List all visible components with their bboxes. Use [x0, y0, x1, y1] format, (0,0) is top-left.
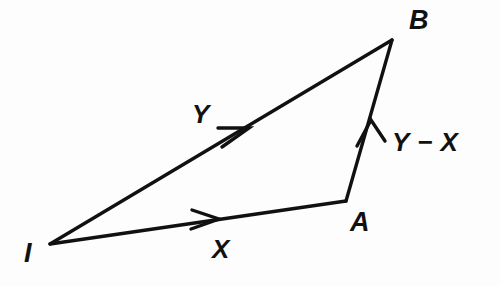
x-vector-arrowhead	[191, 210, 219, 229]
vector-diagram: I B A X Y Y − X	[0, 0, 500, 286]
y-vector-arrowhead	[218, 128, 249, 147]
point-label-i: I	[24, 240, 32, 267]
point-label-b: B	[409, 7, 429, 34]
y-vector-line	[50, 40, 392, 244]
vector-label-y-minus-x: Y − X	[392, 129, 458, 155]
x-vector-line	[50, 201, 346, 244]
point-label-a: A	[350, 209, 370, 236]
vector-label-x: X	[212, 236, 229, 262]
vector-label-y: Y	[192, 101, 209, 127]
